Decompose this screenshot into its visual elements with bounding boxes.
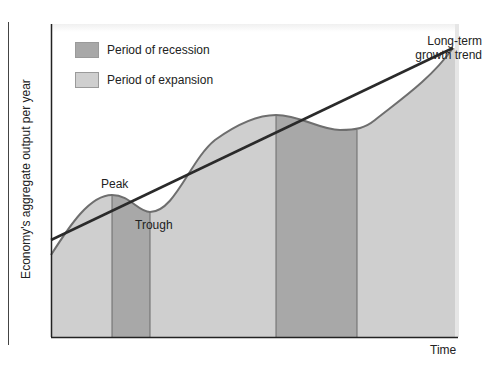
peak-label: Peak bbox=[101, 177, 128, 191]
expansion-band-3 bbox=[357, 20, 458, 337]
trend-label: Long-term growth trend bbox=[340, 34, 482, 62]
legend-recession: Period of recession bbox=[75, 42, 210, 58]
legend-recession-label: Period of recession bbox=[107, 43, 210, 57]
legend-expansion-label: Period of expansion bbox=[107, 73, 213, 87]
y-axis-label: Economy's aggregate output per year bbox=[19, 49, 33, 309]
x-axis-label: Time bbox=[430, 343, 456, 357]
expansion-swatch bbox=[75, 72, 99, 88]
recession-swatch bbox=[75, 42, 99, 58]
trend-label-line2: growth trend bbox=[415, 48, 482, 62]
legend-expansion: Period of expansion bbox=[75, 72, 213, 88]
expansion-band-2 bbox=[150, 20, 276, 337]
trend-label-line1: Long-term bbox=[427, 34, 482, 48]
recession-band-2 bbox=[276, 20, 357, 337]
trough-label: Trough bbox=[135, 218, 173, 232]
